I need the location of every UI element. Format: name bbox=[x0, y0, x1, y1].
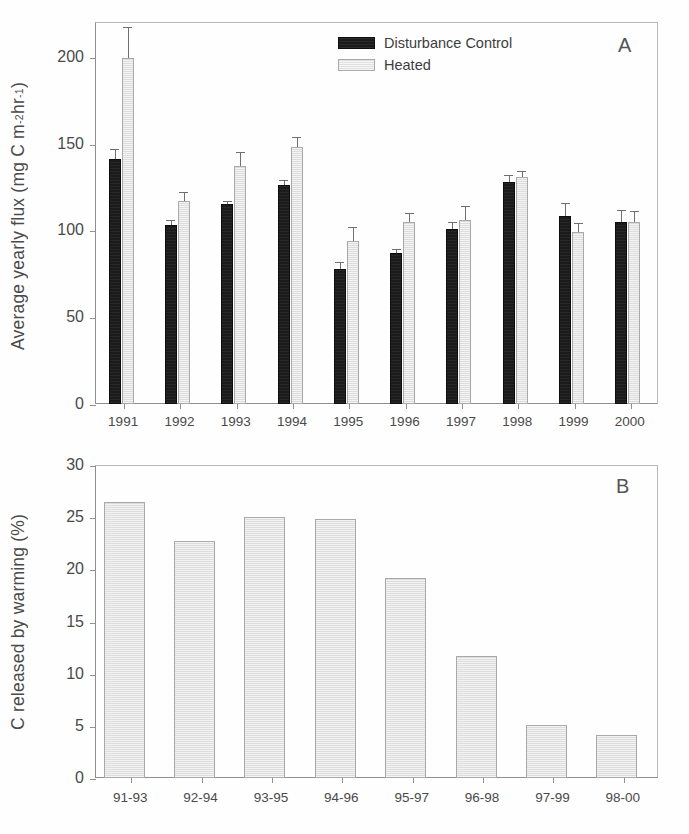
bar-1993-heated bbox=[234, 166, 246, 404]
bar-1999-control bbox=[559, 216, 571, 404]
panel-b-letter: B bbox=[616, 475, 629, 498]
panel-a-x-tick-1994: 1994 bbox=[264, 414, 320, 429]
error-bar-1994-heated bbox=[297, 137, 298, 147]
panel-b-x-tick-91-93: 91-93 bbox=[95, 790, 165, 805]
legend-swatch-heated bbox=[338, 59, 375, 71]
panel-b-x-tick-92-94: 92-94 bbox=[166, 790, 236, 805]
error-cap-1999-heated bbox=[574, 223, 583, 224]
bar-1994-heated bbox=[291, 147, 303, 404]
panel-a-x-tick-1995: 1995 bbox=[320, 414, 376, 429]
bar-1994-control bbox=[278, 185, 290, 404]
bar-1993-control bbox=[221, 204, 233, 404]
bar-1998-heated bbox=[516, 177, 528, 404]
error-cap-1997-heated bbox=[461, 206, 470, 207]
legend-entry-2: Heated bbox=[338, 55, 512, 74]
panel-a-y-tick: 0 bbox=[0, 395, 84, 413]
bar-1996-heated bbox=[403, 222, 415, 404]
bar-1999-heated bbox=[572, 232, 584, 404]
bar-1995-heated bbox=[347, 241, 359, 404]
bar-1995-control bbox=[334, 269, 346, 404]
bar-92-94 bbox=[174, 541, 215, 778]
error-cap-1991-heated bbox=[123, 27, 132, 28]
legend-swatch-disturbance-control bbox=[338, 37, 375, 49]
error-bar-1991-heated bbox=[128, 27, 129, 58]
panel-b-x-tick-93-95: 93-95 bbox=[236, 790, 306, 805]
panel-b-x-tick-98-00: 98-00 bbox=[588, 790, 658, 805]
bar-2000-control bbox=[615, 222, 627, 404]
bar-2000-heated bbox=[628, 222, 640, 404]
error-bar-2000-heated bbox=[634, 211, 635, 221]
panel-a-y-tick: 150 bbox=[0, 135, 84, 153]
legend-entry-1: Disturbance Control bbox=[338, 33, 512, 52]
figure-root: Average yearly flux (mg C m-2 hr-1) 0501… bbox=[0, 0, 689, 834]
error-bar-1993-heated bbox=[240, 152, 241, 166]
error-bar-1995-heated bbox=[353, 227, 354, 241]
error-cap-1998-heated bbox=[517, 171, 526, 172]
bar-94-96 bbox=[315, 519, 356, 778]
error-bar-1996-heated bbox=[409, 213, 410, 222]
panel-b-y-tickmark bbox=[90, 779, 96, 780]
panel-a-x-tick-1998: 1998 bbox=[489, 414, 545, 429]
panel-a-y-tick: 50 bbox=[0, 308, 84, 326]
panel-b-y-tick: 30 bbox=[0, 456, 84, 474]
panel-a-x-tick-2000: 2000 bbox=[602, 414, 658, 429]
error-cap-1996-heated bbox=[405, 213, 414, 214]
error-cap-1993-control bbox=[223, 201, 232, 202]
panel-b-x-tick-96-98: 96-98 bbox=[447, 790, 517, 805]
error-bar-1999-control bbox=[565, 203, 566, 217]
error-bar-1997-heated bbox=[465, 206, 466, 220]
error-cap-1996-control bbox=[392, 249, 401, 250]
panel-b-bars bbox=[95, 465, 658, 778]
bar-1991-control bbox=[109, 159, 121, 404]
panel-a-x-tick-1992: 1992 bbox=[151, 414, 207, 429]
error-cap-2000-control bbox=[617, 210, 626, 211]
panel-b-y-tick: 15 bbox=[0, 613, 84, 631]
error-bar-1991-control bbox=[115, 149, 116, 159]
bar-96-98 bbox=[456, 656, 497, 778]
error-cap-1999-control bbox=[561, 203, 570, 204]
error-cap-1998-control bbox=[504, 175, 513, 176]
panel-b-y-tick: 20 bbox=[0, 560, 84, 578]
error-cap-1995-heated bbox=[348, 227, 357, 228]
panel-a-x-tick-1996: 1996 bbox=[377, 414, 433, 429]
bar-1992-control bbox=[165, 225, 177, 404]
bar-1997-control bbox=[446, 229, 458, 404]
panel-a-bars bbox=[95, 22, 658, 404]
legend: Disturbance ControlHeated bbox=[338, 33, 512, 77]
bar-1991-heated bbox=[122, 58, 134, 404]
panel-b-y-tick: 5 bbox=[0, 717, 84, 735]
error-cap-1992-control bbox=[166, 220, 175, 221]
panel-b-x-tick-95-97: 95-97 bbox=[377, 790, 447, 805]
bar-1998-control bbox=[503, 182, 515, 404]
panel-b-y-tick: 0 bbox=[0, 769, 84, 787]
bar-98-00 bbox=[596, 735, 637, 778]
bar-1992-heated bbox=[178, 201, 190, 404]
panel-a-y-axis-label: Average yearly flux (mg C m-2 hr-1) bbox=[8, 30, 29, 402]
bar-1997-heated bbox=[459, 220, 471, 404]
panel-a-x-tick-1997: 1997 bbox=[433, 414, 489, 429]
error-bar-1998-control bbox=[509, 175, 510, 182]
error-cap-1992-heated bbox=[179, 192, 188, 193]
panel-a-x-tick-1991: 1991 bbox=[95, 414, 151, 429]
legend-label-1: Disturbance Control bbox=[384, 35, 512, 51]
error-bar-1995-control bbox=[340, 262, 341, 269]
legend-label-2: Heated bbox=[384, 57, 431, 73]
panel-a-x-tick-1993: 1993 bbox=[208, 414, 264, 429]
error-cap-2000-heated bbox=[630, 211, 639, 212]
panel-a-x-tick-1999: 1999 bbox=[546, 414, 602, 429]
bar-91-93 bbox=[104, 502, 145, 778]
panel-a-y-tick: 100 bbox=[0, 221, 84, 239]
error-bar-1992-heated bbox=[184, 192, 185, 201]
error-bar-2000-control bbox=[621, 210, 622, 222]
error-cap-1991-control bbox=[110, 149, 119, 150]
bar-93-95 bbox=[244, 517, 285, 778]
bar-1996-control bbox=[390, 253, 402, 404]
panel-a-y-tickmark bbox=[90, 405, 96, 406]
error-bar-1997-control bbox=[452, 222, 453, 229]
error-cap-1994-control bbox=[279, 180, 288, 181]
panel-b-x-tick-97-99: 97-99 bbox=[517, 790, 587, 805]
panel-b-y-tick: 25 bbox=[0, 508, 84, 526]
error-cap-1994-heated bbox=[292, 137, 301, 138]
error-cap-1995-control bbox=[335, 262, 344, 263]
panel-a-y-tick: 200 bbox=[0, 48, 84, 66]
